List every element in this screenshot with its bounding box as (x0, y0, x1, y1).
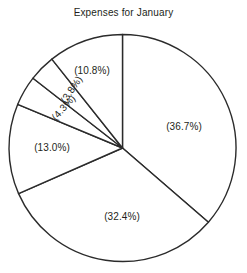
pie-slice-label: (36.7%) (166, 121, 202, 132)
pie-chart-svg: (36.7%)(32.4%)(13.0%)(4.3%)(3.8%)(10.8%) (0, 0, 247, 273)
pie-chart-figure: Expenses for January (36.7%)(32.4%)(13.0… (0, 0, 247, 273)
pie-slice-label: (13.0%) (34, 142, 70, 153)
pie-slice-label: (10.8%) (74, 65, 110, 76)
pie-slice-label: (32.4%) (104, 211, 140, 222)
